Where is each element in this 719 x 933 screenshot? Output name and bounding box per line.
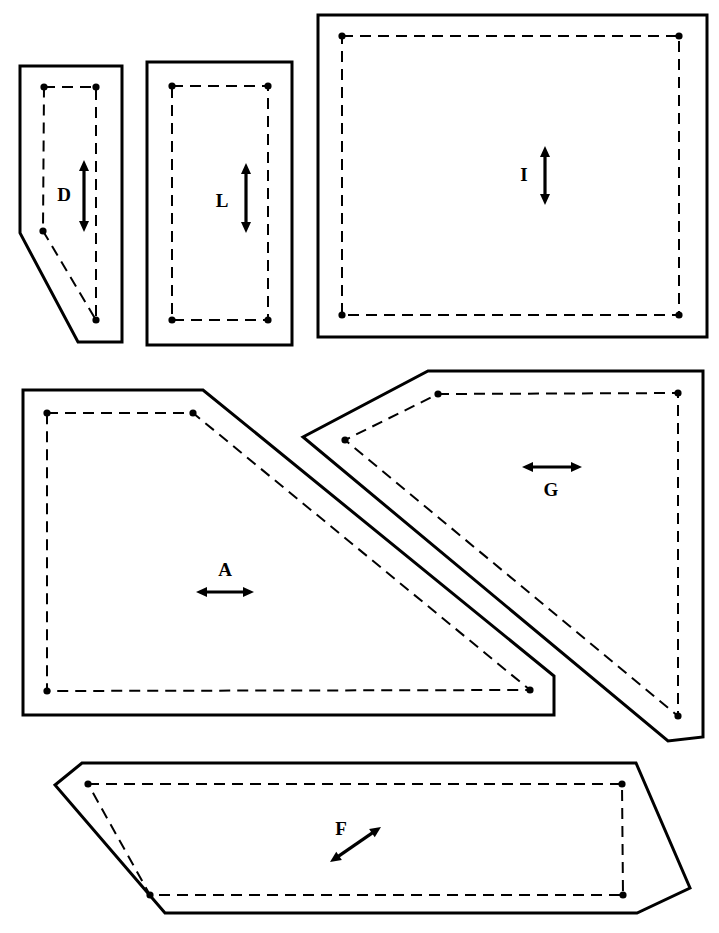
piece-label-a: A bbox=[218, 559, 232, 580]
piece-label-f: F bbox=[335, 818, 347, 839]
cut-line-i bbox=[318, 15, 707, 337]
notch-dot bbox=[189, 409, 196, 416]
notch-dot bbox=[92, 83, 99, 90]
notch-dot bbox=[168, 82, 175, 89]
notch-dot bbox=[618, 780, 625, 787]
notch-dot bbox=[264, 82, 271, 89]
notch-dot bbox=[674, 712, 681, 719]
pattern-piece-i[interactable]: I bbox=[318, 15, 707, 337]
cut-line-d bbox=[20, 66, 122, 342]
notch-dot bbox=[674, 389, 681, 396]
piece-label-d: D bbox=[57, 184, 71, 205]
notch-dot bbox=[168, 316, 175, 323]
notch-dot bbox=[526, 686, 533, 693]
notch-dot bbox=[338, 32, 345, 39]
pattern-piece-l[interactable]: L bbox=[147, 62, 292, 345]
notch-dot bbox=[84, 780, 91, 787]
notch-dot bbox=[341, 436, 348, 443]
cut-line-f bbox=[55, 763, 690, 913]
notch-dot bbox=[92, 316, 99, 323]
notch-dot bbox=[675, 311, 682, 318]
piece-label-g: G bbox=[544, 479, 559, 500]
notch-dot bbox=[43, 687, 50, 694]
pattern-piece-f[interactable]: F bbox=[55, 763, 690, 913]
pattern-diagram: DLIAGF bbox=[0, 0, 719, 933]
notch-dot bbox=[338, 311, 345, 318]
notch-dot bbox=[40, 83, 47, 90]
notch-dot bbox=[43, 409, 50, 416]
notch-dot bbox=[39, 227, 46, 234]
pattern-piece-d[interactable]: D bbox=[20, 66, 122, 342]
piece-label-l: L bbox=[216, 190, 229, 211]
notch-dot bbox=[146, 891, 153, 898]
piece-label-i: I bbox=[520, 164, 527, 185]
pattern-layout-sheet: DLIAGF bbox=[0, 0, 719, 933]
notch-dot bbox=[675, 32, 682, 39]
notch-dot bbox=[264, 316, 271, 323]
notch-dot bbox=[434, 390, 441, 397]
notch-dot bbox=[619, 891, 626, 898]
